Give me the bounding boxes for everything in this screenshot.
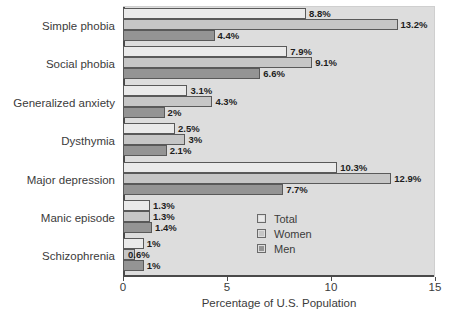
- bar-value-label: 1.4%: [155, 222, 177, 233]
- bar-women: [123, 19, 398, 30]
- bar-men: [123, 260, 144, 271]
- legend-swatch-men-icon: [257, 244, 266, 253]
- x-axis-tick-label: 5: [224, 281, 230, 293]
- bar-value-label: 7.9%: [290, 46, 312, 57]
- category-label: Schizophrenia: [42, 250, 115, 262]
- bar-women: [123, 57, 312, 68]
- bar-value-label: 2%: [168, 107, 182, 118]
- bar-value-label: 2.1%: [170, 145, 192, 156]
- chart-legend: Total Women Men: [257, 211, 312, 256]
- bar-total: [123, 85, 187, 96]
- category-label: Dysthymia: [61, 135, 115, 147]
- legend-item-women[interactable]: Women: [257, 226, 312, 241]
- bar-men: [123, 184, 283, 195]
- bar-men: [123, 145, 167, 156]
- bar-value-label: 2.5%: [178, 123, 200, 134]
- bar-value-label: 13.2%: [401, 19, 428, 30]
- bar-value-label: 4.3%: [215, 96, 237, 107]
- bar-men: [123, 222, 152, 233]
- bar-value-label: 10.3%: [340, 162, 367, 173]
- bar-value-label: 12.9%: [394, 173, 421, 184]
- bar-value-label: 6.6%: [263, 68, 285, 79]
- x-axis-tick-label: 10: [325, 281, 338, 293]
- bar-value-label: 7.7%: [286, 184, 308, 195]
- bar-total: [123, 123, 175, 134]
- category-label: Social phobia: [46, 58, 115, 70]
- bar-women: [123, 96, 212, 107]
- bar-total: [123, 200, 150, 211]
- bar-value-label: 1.3%: [153, 200, 175, 211]
- bar-men: [123, 107, 165, 118]
- bar-value-label: 3.1%: [190, 85, 212, 96]
- legend-label-women: Women: [274, 228, 312, 240]
- bar-men: [123, 30, 215, 41]
- legend-swatch-total-icon: [257, 214, 266, 223]
- category-label: Generalized anxiety: [13, 97, 115, 109]
- x-axis-tick-label: 0: [120, 281, 126, 293]
- legend-swatch-women-icon: [257, 229, 266, 238]
- bar-women: [123, 173, 391, 184]
- bar-value-label: 1.3%: [153, 211, 175, 222]
- bar-value-label: 1%: [147, 260, 161, 271]
- category-label: Major depression: [27, 174, 115, 186]
- bar-women: [123, 134, 185, 145]
- bar-total: [123, 46, 287, 57]
- bar-value-label: 8.8%: [309, 8, 331, 19]
- category-label: Simple phobia: [42, 20, 115, 32]
- bar-men: [123, 68, 260, 79]
- bar-chart: 8.8%13.2%4.4%7.9%9.1%6.6%3.1%4.3%2%2.5%3…: [0, 0, 457, 317]
- legend-label-total: Total: [274, 213, 297, 225]
- legend-item-men[interactable]: Men: [257, 241, 312, 256]
- bar-total: [123, 8, 306, 19]
- bar-total: [123, 162, 337, 173]
- bar-total: [123, 238, 144, 249]
- x-axis-title: Percentage of U.S. Population: [123, 297, 435, 309]
- bar-value-label: 3%: [188, 134, 202, 145]
- bar-women: [123, 211, 150, 222]
- legend-label-men: Men: [274, 243, 295, 255]
- bar-value-label: 4.4%: [218, 30, 240, 41]
- category-label: Manic episode: [41, 212, 115, 224]
- legend-item-total[interactable]: Total: [257, 211, 312, 226]
- bar-value-label: 1%: [147, 238, 161, 249]
- bar-value-label: 0.6%: [128, 249, 150, 260]
- bar-value-label: 9.1%: [315, 57, 337, 68]
- x-axis-tick-label: 15: [429, 281, 442, 293]
